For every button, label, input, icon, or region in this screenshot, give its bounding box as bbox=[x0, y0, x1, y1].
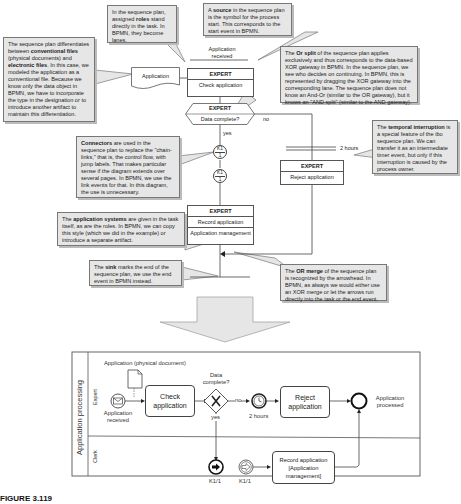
note-or-split: The Or split of the sequence plan applie… bbox=[280, 46, 418, 103]
task-check-application-bpmn: Check application bbox=[145, 385, 195, 417]
source-label: Application received bbox=[205, 46, 239, 60]
decision-role: EXPERT bbox=[185, 105, 255, 112]
note-source: A source in the sequence plan is the sym… bbox=[203, 3, 292, 36]
gateway-no-label: no bbox=[235, 397, 241, 404]
note-sink: The sink marks the end of the sequence p… bbox=[89, 260, 182, 286]
task-reject-application: EXPERT Reject application bbox=[280, 160, 344, 185]
note-files: The sequence plan differentiates between… bbox=[3, 37, 95, 122]
task-name: Check application bbox=[188, 80, 253, 90]
task-record-application: EXPERT Record application Application ma… bbox=[187, 205, 254, 245]
end-event-label: Application processed bbox=[372, 395, 408, 409]
note-connectors: Connectors are used in the sequence plan… bbox=[76, 136, 180, 198]
lane-clerk-label: Clerk bbox=[92, 450, 98, 463]
start-event-label: Application received bbox=[101, 410, 135, 424]
gateway-yes-label: yes bbox=[211, 414, 220, 421]
decision-shape: EXPERT Data complete? bbox=[185, 103, 255, 125]
document-shape: Application bbox=[131, 67, 180, 89]
pool-label: Application processing bbox=[75, 380, 84, 455]
task-reject-application-bpmn: Reject application bbox=[280, 386, 330, 418]
data-object-label: Application (physical document) bbox=[104, 360, 186, 367]
link-throw-label: K1/1 bbox=[209, 478, 221, 485]
task-check-application: EXPERT Check application bbox=[187, 68, 254, 97]
document-label: Application bbox=[131, 73, 180, 80]
task-role: EXPERT bbox=[188, 69, 253, 80]
task-role: EXPERT bbox=[188, 206, 253, 217]
lane-expert-label: Expert bbox=[92, 389, 98, 405]
connector-in: K11 bbox=[213, 169, 227, 183]
timer-label-bpmn: 2 hours bbox=[249, 413, 268, 420]
note-roles: In the sequence plan, assigned roles sta… bbox=[107, 5, 177, 43]
note-application-systems: The application systems are given in the… bbox=[57, 212, 185, 246]
task-record-application-bpmn: Record application [Application manageme… bbox=[272, 451, 335, 484]
note-or-merge: The OR merge of the sequence plan is rec… bbox=[280, 264, 387, 301]
task-name: Record application bbox=[188, 217, 253, 228]
task-role: EXPERT bbox=[281, 161, 343, 172]
figure-caption: FIGURE 3.119 bbox=[0, 494, 52, 503]
note-temporal: The temporal interruption is a special f… bbox=[372, 120, 458, 174]
decision-question: Data complete? bbox=[185, 116, 255, 123]
task-name: Reject application bbox=[281, 172, 343, 182]
link-catch-label: K1/1 bbox=[239, 478, 251, 485]
decision-no-label: no bbox=[263, 116, 269, 123]
task-system: Application management bbox=[188, 228, 253, 238]
decision-yes-label: yes bbox=[223, 130, 232, 137]
gateway-label: Data complete? bbox=[199, 372, 233, 386]
connector-out: K11 bbox=[213, 145, 227, 159]
timer-label: 2 hours bbox=[340, 145, 358, 152]
